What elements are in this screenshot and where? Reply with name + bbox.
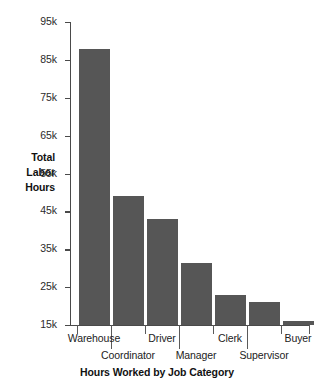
y-tick-5: 45k xyxy=(65,211,70,212)
y-tick-label-8: 15k xyxy=(40,318,57,330)
x-tick-6 xyxy=(281,325,282,334)
y-tick-4: 55k xyxy=(65,174,70,175)
y-tick-label-3: 65k xyxy=(40,129,57,141)
y-axis-line xyxy=(70,22,71,325)
bar-chart: Total Labor Hours 95k 85k 75k 65k 55k 45… xyxy=(0,0,314,389)
x-label-manager: Manager xyxy=(176,349,217,361)
y-tick-label-6: 35k xyxy=(40,242,57,254)
x-axis-line xyxy=(70,325,310,326)
x-label-clerk: Clerk xyxy=(218,332,242,344)
x-tick-4 xyxy=(213,325,214,334)
plot-area: 95k 85k 75k 65k 55k 45k 35k 25k 15k xyxy=(70,22,310,325)
y-tick-1: 85k xyxy=(65,60,70,61)
bar-supervisor xyxy=(249,302,280,325)
bar-driver xyxy=(147,219,178,325)
y-tick-label-5: 45k xyxy=(40,204,57,216)
y-tick-6: 35k xyxy=(65,249,70,250)
y-axis-title-line-3: Hours xyxy=(9,180,55,195)
x-label-supervisor: Supervisor xyxy=(239,349,288,361)
x-label-buyer: Buyer xyxy=(285,332,312,344)
y-tick-label-4: 55k xyxy=(40,167,57,179)
x-label-driver: Driver xyxy=(148,332,175,344)
x-label-coordinator: Coordinator xyxy=(101,349,155,361)
y-tick-0: 95k xyxy=(65,22,70,23)
bar-clerk xyxy=(215,295,246,325)
y-tick-label-7: 25k xyxy=(40,280,57,292)
y-tick-7: 25k xyxy=(65,287,70,288)
x-tick-3 xyxy=(179,325,180,349)
y-tick-label-1: 85k xyxy=(40,53,57,65)
y-axis-title-line-1: Total xyxy=(9,150,55,165)
y-tick-label-2: 75k xyxy=(40,91,57,103)
bar-manager xyxy=(181,263,212,325)
x-tick-5 xyxy=(247,325,248,349)
x-axis-title: Hours Worked by Job Category xyxy=(0,366,314,378)
y-tick-label-0: 95k xyxy=(40,15,57,27)
y-tick-2: 75k xyxy=(65,98,70,99)
bar-coordinator xyxy=(113,196,144,325)
x-label-warehouse: Warehouse xyxy=(68,332,120,344)
y-tick-8: 15k xyxy=(65,325,70,326)
y-tick-3: 65k xyxy=(65,136,70,137)
bar-warehouse xyxy=(79,49,110,325)
x-tick-2 xyxy=(145,325,146,334)
